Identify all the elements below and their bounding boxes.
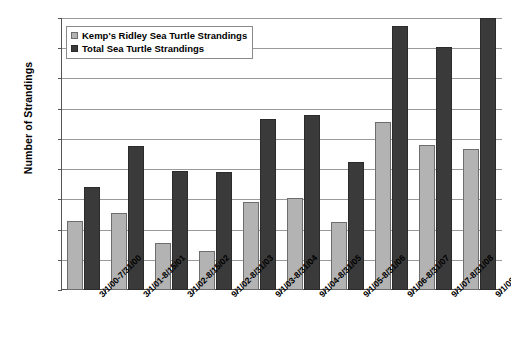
bar [480, 18, 496, 290]
bar-group [325, 18, 369, 290]
bar-group [281, 18, 325, 290]
bar [84, 187, 100, 290]
bar-group [457, 18, 501, 290]
bar-chart: Number of Strandings 0204060801001201401… [0, 0, 511, 362]
y-axis-tick-mark [58, 290, 62, 291]
legend-label-total: Total Sea Turtle Strandings [82, 43, 204, 54]
chart-legend: Kemp's Ridley Sea Turtle Strandings Tota… [66, 26, 253, 59]
x-axis-tick-label: 9/1/07-8/31/08 [449, 292, 456, 299]
bar-group [413, 18, 457, 290]
x-axis-tick-label: 9/1/03-8/31/04 [273, 292, 280, 299]
x-axis-tick-label: 9/1/05-8/31/06 [361, 292, 368, 299]
x-axis-tick-label: 9/1/08-8/31/09 [493, 292, 500, 299]
x-axis-tick-labels: 3/1/00-7/31/003/1/01-8/15/013/1/02-8/15/… [61, 292, 501, 362]
bar [392, 26, 408, 290]
legend-swatch-icon-kemps-ridley [71, 32, 78, 39]
legend-label-kemps-ridley: Kemp's Ridley Sea Turtle Strandings [82, 30, 247, 41]
x-axis-tick-label: 9/1/02-8/31/03 [229, 292, 236, 299]
x-axis-tick-label: 3/1/01-8/15/01 [141, 292, 148, 299]
y-axis-title: Number of Strandings [22, 38, 34, 198]
bar [67, 221, 83, 291]
x-axis-tick-label: 3/1/00-7/31/00 [97, 292, 104, 299]
x-axis-tick-label: 9/1/04-8/31/05 [317, 292, 324, 299]
bar-group [369, 18, 413, 290]
x-axis-tick-label: 9/1/06-8/31/07 [405, 292, 412, 299]
x-axis-tick-label: 3/1/02-8/15/02 [185, 292, 192, 299]
legend-swatch-icon-total [71, 45, 78, 52]
legend-item-kemps-ridley: Kemp's Ridley Sea Turtle Strandings [71, 29, 247, 42]
legend-item-total: Total Sea Turtle Strandings [71, 42, 247, 55]
